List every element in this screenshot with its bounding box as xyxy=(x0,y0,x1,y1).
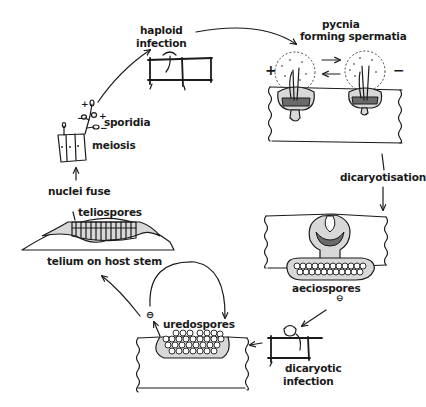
pycnia-plus-sign: + xyxy=(265,65,277,75)
pycnia-minus-sign: − xyxy=(393,65,405,75)
label-dicaryotic-infection: infection xyxy=(283,375,334,387)
line-dicaryotisation-top xyxy=(382,154,384,170)
arrow-to-uredinium xyxy=(250,343,262,345)
uredinium-leaf-section-icon xyxy=(137,337,249,392)
label-dicaryotic: dicaryotic xyxy=(285,362,342,374)
arrow-uredospore-release xyxy=(154,322,160,336)
uredospores-minus-sign: ⊖ xyxy=(146,310,154,320)
label-teliospores: teliospores xyxy=(78,206,142,218)
label-meiosis: meiosis xyxy=(92,139,136,151)
label-dicaryotisation: dicaryotisation xyxy=(340,171,426,183)
arrow-to-pycnia xyxy=(196,28,296,44)
aeciospores-cluster-icon xyxy=(294,263,366,275)
dicaryotic-infection-cell-icon xyxy=(268,326,322,367)
sporidia-plus-sign-1: + xyxy=(81,99,89,109)
sporidia-plus-sign-2: + xyxy=(99,111,107,121)
sporidia-minus-sign-1: − xyxy=(77,113,85,123)
label-pycnia: pycnia xyxy=(322,18,360,30)
haploid-infection-cells-icon xyxy=(148,52,212,90)
label-nuclei-fuse: nuclei fuse xyxy=(48,185,110,197)
arrow-uredospore-repeat-cycle xyxy=(150,262,225,318)
uredospores-cluster-icon xyxy=(163,330,224,354)
label-uredospores: uredospores xyxy=(163,318,235,330)
label-forming-spermatia: forming spermatia xyxy=(300,30,407,42)
label-telium-on-host-stem: telium on host stem xyxy=(47,255,162,267)
label-infection: infection xyxy=(136,37,187,49)
aeciospores-minus-sign: ⊖ xyxy=(336,293,344,303)
arrow-to-telium xyxy=(102,276,140,316)
sporidia-minus-sign-2: − xyxy=(100,123,108,133)
label-aeciospores: aeciospores xyxy=(292,282,361,294)
label-haploid: haploid xyxy=(140,24,183,36)
basidium-cell-icon xyxy=(58,100,99,162)
label-sporidia: sporidia xyxy=(104,116,150,128)
pycnia-leaf-section-icon xyxy=(269,51,403,143)
arrow-to-haploid-infection xyxy=(98,50,150,102)
arrow-to-dicaryotic-infection xyxy=(302,310,326,326)
